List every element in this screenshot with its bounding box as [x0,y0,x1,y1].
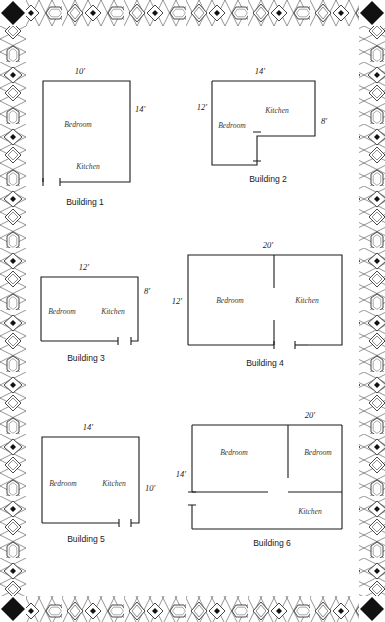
b4-caption: Building 4 [246,358,284,368]
b1-bedroom-label: Bedroom [64,120,92,129]
b3-top-dimension: 12' [79,262,90,272]
b2-kitchen-label: Kitchen [264,106,289,115]
b6-caption: Building 6 [253,538,291,548]
b2-left-dimension: 12' [197,102,208,112]
b5-top-dimension: 14' [83,422,94,432]
building-4-plan: 20' 12' Bedroom Kitchen Building 4 [172,240,342,368]
b5-right-dimension: 10' [145,483,156,493]
b5-bedroom-label: Bedroom [49,479,77,488]
b4-bedroom-label: Bedroom [216,296,244,305]
b1-kitchen-label: Kitchen [75,162,100,171]
b5-kitchen-label: Kitchen [101,479,126,488]
b3-kitchen-label: Kitchen [100,307,125,316]
b2-caption: Building 2 [249,174,287,184]
b6-bedroom-left-label: Bedroom [220,448,248,457]
building-3-plan: 12' 8' Bedroom Kitchen Building 3 [41,262,150,363]
b1-top-dimension: 10' [75,66,86,76]
b1-caption: Building 1 [66,197,104,207]
b3-right-dimension: 8' [144,286,150,296]
b4-kitchen-label: Kitchen [294,296,319,305]
building-2-plan: 14' 12' 8' Bedroom Kitchen Building 2 [197,66,328,184]
b4-top-dimension: 20' [263,240,274,250]
floor-plans: 10' 14' Bedroom Kitchen Building 1 14' 1… [0,0,385,622]
b3-bedroom-label: Bedroom [48,307,76,316]
building-1-plan: 10' 14' Bedroom Kitchen Building 1 [43,66,146,207]
b4-left-dimension: 12' [172,296,183,306]
b2-top-dimension: 14' [255,66,266,76]
building-5-plan: 14' 10' Bedroom Kitchen Building 5 [42,422,156,544]
page-root: 10' 14' Bedroom Kitchen Building 1 14' 1… [0,0,385,622]
b6-bedroom-right-label: Bedroom [304,448,332,457]
b2-right-dimension: 8' [321,116,327,126]
b5-caption: Building 5 [67,534,105,544]
b6-kitchen-label: Kitchen [297,507,322,516]
b6-left-dimension: 14' [176,469,187,479]
building-6-plan: 20' 14' Bedroom Bedroom Kitchen Building… [176,410,342,548]
b3-caption: Building 3 [67,353,105,363]
b6-top-dimension: 20' [305,410,316,420]
b1-right-dimension: 14' [135,104,146,114]
b2-bedroom-label: Bedroom [218,121,246,130]
